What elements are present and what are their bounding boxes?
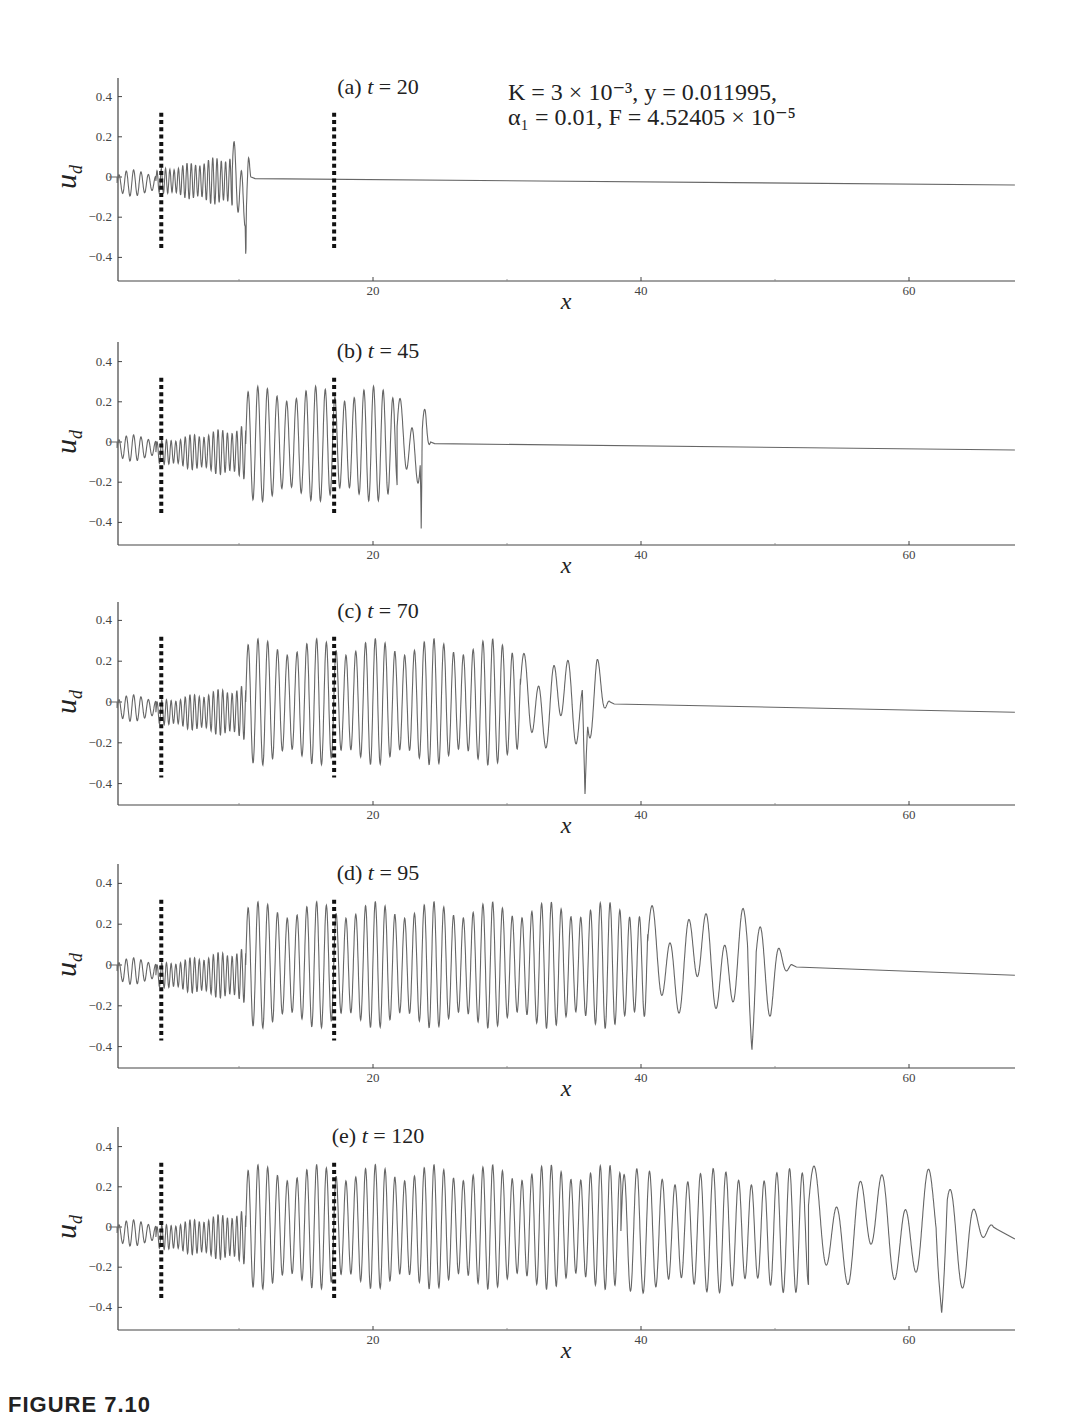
svg-text:ud: ud [49, 1214, 86, 1239]
panel-title: (c) t = 70 [337, 598, 418, 623]
parameter-annotation: K = 3 × 10⁻³, y = 0.011995,α₁ = 0.01, F … [508, 79, 796, 130]
y-tick-label: −0.2 [88, 735, 112, 750]
y-axis-label: ud [49, 952, 86, 977]
ud-curve [109, 386, 1015, 528]
x-tick-label: 60 [903, 1070, 916, 1085]
x-tick-label: 60 [903, 547, 916, 562]
x-tick-label: 20 [367, 283, 380, 298]
panel-d: 0.40.20−0.2−0.4204060xud(d) t = 95 [49, 860, 1015, 1101]
figure-caption: FIGURE 7.10 [8, 1392, 151, 1416]
y-axis-label: ud [49, 689, 86, 714]
panel-title: (a) t = 20 [337, 74, 418, 99]
ud-curve [109, 1165, 1015, 1313]
y-tick-label: −0.2 [88, 998, 112, 1013]
x-tick-label: 20 [367, 1332, 380, 1347]
y-tick-label: 0.2 [96, 129, 112, 144]
y-tick-label: −0.2 [88, 1259, 112, 1274]
y-axis-label: ud [49, 429, 86, 454]
y-tick-label: 0.2 [96, 1179, 112, 1194]
y-tick-label: −0.2 [88, 209, 112, 224]
x-tick-label: 40 [635, 1070, 648, 1085]
panel-e: 0.40.20−0.2−0.4204060xud(e) t = 120 [49, 1123, 1015, 1363]
x-tick-label: 40 [635, 807, 648, 822]
y-tick-label: −0.4 [88, 249, 112, 264]
y-tick-label: −0.4 [88, 776, 112, 791]
x-tick-label: 20 [367, 547, 380, 562]
x-axis-label: x [560, 552, 572, 578]
svg-text:α₁ = 0.01, F = 4.52405 × 10⁻⁵: α₁ = 0.01, F = 4.52405 × 10⁻⁵ [508, 104, 796, 130]
y-axis-label: ud [49, 1214, 86, 1239]
x-tick-label: 60 [903, 1332, 916, 1347]
svg-text:ud: ud [49, 689, 86, 714]
x-tick-label: 40 [635, 1332, 648, 1347]
ud-curve [109, 902, 1015, 1050]
svg-text:K = 3 × 10⁻³, y = 0.011995,: K = 3 × 10⁻³, y = 0.011995, [508, 79, 777, 105]
y-tick-label: 0.2 [96, 916, 112, 931]
x-tick-label: 60 [903, 807, 916, 822]
x-axis-label: x [560, 812, 572, 838]
y-tick-label: 0.2 [96, 394, 112, 409]
ud-curve [109, 639, 1015, 794]
panel-title: (d) t = 95 [337, 860, 420, 885]
y-axis-label: ud [49, 164, 86, 189]
panel-b: 0.40.20−0.2−0.4204060xud(b) t = 45 [49, 338, 1015, 578]
panel-title: (b) t = 45 [337, 338, 420, 363]
y-tick-label: 0.4 [96, 612, 113, 627]
svg-text:ud: ud [49, 429, 86, 454]
y-tick-label: −0.4 [88, 514, 112, 529]
svg-text:ud: ud [49, 952, 86, 977]
x-tick-label: 20 [367, 1070, 380, 1085]
x-tick-label: 20 [367, 807, 380, 822]
ud-curve [109, 142, 1015, 254]
x-axis-label: x [560, 1075, 572, 1101]
y-tick-label: 0.4 [96, 1139, 113, 1154]
y-tick-label: 0.4 [96, 89, 113, 104]
y-tick-label: −0.4 [88, 1299, 112, 1314]
x-tick-label: 40 [635, 547, 648, 562]
y-tick-label: −0.4 [88, 1039, 112, 1054]
svg-text:ud: ud [49, 164, 86, 189]
y-tick-label: 0.4 [96, 354, 113, 369]
panel-title: (e) t = 120 [332, 1123, 424, 1148]
y-tick-label: 0.4 [96, 875, 113, 890]
x-tick-label: 60 [903, 283, 916, 298]
x-axis-label: x [560, 1337, 572, 1363]
y-tick-label: 0.2 [96, 653, 112, 668]
y-tick-label: −0.2 [88, 474, 112, 489]
x-axis-label: x [560, 288, 572, 314]
x-tick-label: 40 [635, 283, 648, 298]
panel-c: 0.40.20−0.2−0.4204060xud(c) t = 70 [49, 598, 1015, 838]
